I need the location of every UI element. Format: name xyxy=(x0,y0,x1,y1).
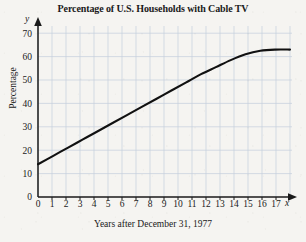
y-tick-label: 10 xyxy=(16,169,32,179)
y-tick-label: 40 xyxy=(16,99,32,109)
y-tick-label: 60 xyxy=(16,52,32,62)
x-tick-label: 7 xyxy=(129,199,143,209)
x-tick-label: 11 xyxy=(185,199,199,209)
y-axis-arrow xyxy=(34,17,42,26)
x-tick-label: 3 xyxy=(73,199,87,209)
x-tick-label: 17 xyxy=(269,199,283,209)
y-tick-label: 70 xyxy=(16,29,32,39)
x-tick-label: 12 xyxy=(199,199,213,209)
x-tick-label: 13 xyxy=(213,199,227,209)
chart-figure: Percentage of U.S. Households with Cable… xyxy=(0,0,306,242)
x-tick-label: 1 xyxy=(45,199,59,209)
y-tick-label: 50 xyxy=(16,75,32,85)
x-axis-arrow xyxy=(288,193,297,201)
y-axis-title: Percentage xyxy=(8,53,18,123)
y-tick-label: 20 xyxy=(16,146,32,156)
y-tick-label: 0 xyxy=(16,192,32,202)
x-tick-label: 10 xyxy=(171,199,185,209)
x-tick-label: 9 xyxy=(157,199,171,209)
x-tick-label: 4 xyxy=(87,199,101,209)
y-axis-variable-label: y xyxy=(25,14,29,24)
x-tick-label: 0 xyxy=(31,199,45,209)
x-tick-label: 16 xyxy=(255,199,269,209)
x-tick-label: 2 xyxy=(59,199,73,209)
x-tick-label: 5 xyxy=(101,199,115,209)
y-tick-label: 30 xyxy=(16,122,32,132)
x-axis-variable-label: x xyxy=(285,198,289,208)
x-tick-label: 14 xyxy=(227,199,241,209)
x-axis-title: Years after December 31, 1977 xyxy=(0,219,306,229)
x-tick-label: 6 xyxy=(115,199,129,209)
x-tick-label: 8 xyxy=(143,199,157,209)
x-tick-label: 15 xyxy=(241,199,255,209)
